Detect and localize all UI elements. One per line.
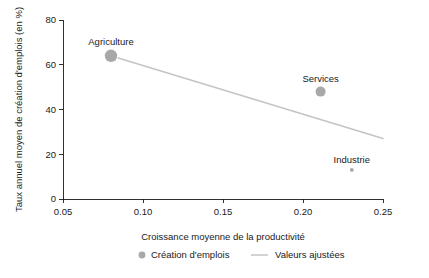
data-point-industrie[interactable] [350, 168, 354, 172]
data-point-agriculture[interactable] [105, 50, 117, 62]
fit-line [118, 58, 383, 139]
x-tick-label: 0.05 [54, 206, 73, 217]
x-tick-label: 0.20 [294, 206, 313, 217]
y-tick-label: 60 [45, 59, 56, 70]
point-label-industrie: Industrie [334, 154, 370, 165]
scatter-chart: 0204060800.050.100.150.200.25Croissance … [0, 0, 429, 278]
y-tick-label: 80 [45, 14, 56, 25]
data-point-services[interactable] [316, 87, 326, 97]
y-tick-label: 0 [51, 193, 56, 204]
point-label-services: Services [302, 73, 339, 84]
legend-label-creation: Création d'emplois [151, 249, 230, 260]
y-tick-label: 40 [45, 104, 56, 115]
chart-canvas: 0204060800.050.100.150.200.25Croissance … [0, 0, 429, 278]
legend-label-valeurs: Valeurs ajustées [275, 249, 345, 260]
x-tick-label: 0.15 [214, 206, 233, 217]
y-tick-label: 20 [45, 149, 56, 160]
x-tick-label: 0.25 [374, 206, 393, 217]
y-axis-title: Taux annuel moyen de création d'emplois … [13, 7, 24, 212]
legend-marker-circle [139, 252, 146, 259]
x-tick-label: 0.10 [134, 206, 153, 217]
point-label-agriculture: Agriculture [88, 36, 133, 47]
x-axis-title: Croissance moyenne de la productivité [141, 231, 305, 242]
